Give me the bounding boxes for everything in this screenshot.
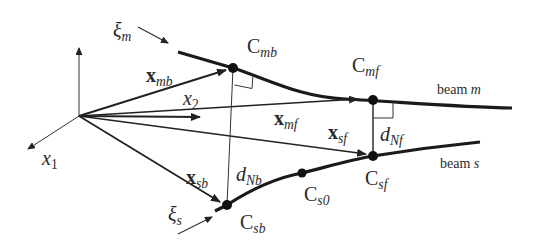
label-c-s0: Cs0: [304, 184, 329, 204]
axis-x2: [79, 116, 200, 117]
axis-x1: [28, 116, 79, 149]
label-c-sf: Csf: [365, 168, 387, 188]
label-d-nb: dNb: [236, 164, 262, 184]
label-beam-m: beam m: [437, 83, 481, 97]
label-x2: x2: [183, 88, 199, 108]
vector-x-mf: [79, 99, 358, 116]
label-c-sb: Csb: [240, 212, 265, 232]
beam-contact-diagram: x1 x2 ξm ξs Cmb Cmf Csb Cs0 Csf xmb xmf …: [0, 0, 539, 246]
label-c-mf: Cmf: [352, 55, 379, 75]
xi-m-arrow: [138, 27, 168, 43]
point-c-mf: [368, 95, 378, 105]
label-xi-s: ξs: [168, 204, 182, 224]
vector-x-sf: [79, 116, 366, 154]
label-x-mb: xmb: [146, 65, 173, 85]
label-c-mb: Cmb: [247, 36, 277, 56]
label-x-mf: xmf: [274, 108, 298, 128]
xi-s-arrow: [178, 217, 212, 234]
point-c-sb: [222, 200, 232, 210]
coordinate-axes: [28, 48, 200, 149]
d-nb-right-angle: [235, 74, 254, 89]
point-c-mb: [228, 63, 238, 73]
label-x-sf: xsf: [328, 122, 347, 142]
label-d-nf: dNf: [380, 124, 403, 144]
label-x-sb: xsb: [186, 167, 208, 187]
label-beam-s: beam s: [440, 157, 479, 171]
label-xi-m: ξm: [113, 20, 131, 40]
point-c-sf: [368, 151, 378, 161]
point-c-s0: [298, 169, 307, 178]
label-x1: x1: [42, 148, 58, 168]
